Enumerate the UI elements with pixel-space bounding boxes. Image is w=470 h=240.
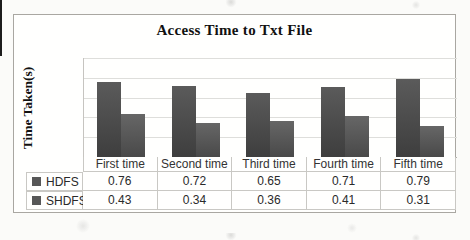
bar-group-5: [382, 58, 457, 157]
table-header-3: Third time: [232, 157, 307, 172]
table-value-hdfs-4: 0.71: [307, 172, 382, 191]
bar-shdfs-1: [121, 114, 145, 157]
table-value-hdfs-3: 0.65: [232, 172, 307, 191]
y-axis-title: Time Taken(s): [20, 58, 36, 158]
bar-shdfs-5: [420, 126, 444, 157]
table-header-5: Fifth time: [381, 157, 456, 172]
table-header-2: Second time: [158, 157, 233, 172]
bar-group-1: [84, 58, 159, 157]
bars: [84, 58, 457, 157]
bar-shdfs-3: [270, 121, 294, 157]
table-value-shdfs-5: 0.31: [381, 191, 456, 210]
bar-shdfs-2: [196, 123, 220, 157]
series-name: HDFS: [46, 175, 79, 189]
table-value-hdfs-5: 0.79: [381, 172, 456, 191]
table-header-4: Fourth time: [307, 157, 382, 172]
chart-title: Access Time to Txt File: [14, 22, 455, 39]
legend-item-shdfs: SHDFS: [26, 191, 83, 210]
bar-group-3: [233, 58, 308, 157]
legend-swatch-icon: [32, 196, 41, 205]
legend-swatch-icon: [32, 177, 41, 186]
series-name: SHDFS: [46, 194, 87, 208]
table-value-hdfs-1: 0.76: [83, 172, 158, 191]
table-value-shdfs-2: 0.34: [158, 191, 233, 210]
table-value-shdfs-4: 0.41: [307, 191, 382, 210]
table-header-1: First time: [83, 157, 158, 172]
table-corner-spacer: [26, 157, 83, 172]
table-value-hdfs-2: 0.72: [158, 172, 233, 191]
table-value-shdfs-1: 0.43: [83, 191, 158, 210]
legend-item-hdfs: HDFS: [26, 172, 83, 191]
data-table: First timeSecond timeThird timeFourth ti…: [26, 157, 456, 210]
table-value-shdfs-3: 0.36: [232, 191, 307, 210]
bar-shdfs-4: [345, 116, 369, 157]
bar-group-2: [159, 58, 234, 157]
chart-frame: Access Time to Txt File Time Taken(s) 00…: [13, 14, 456, 213]
plot-area: [83, 58, 457, 158]
bar-hdfs-5: [396, 79, 420, 157]
scan-edge-artifact: [0, 0, 2, 56]
scanned-page: { "chart_data": { "type": "bar", "title"…: [0, 0, 470, 233]
bar-hdfs-4: [321, 87, 345, 157]
bar-hdfs-1: [97, 82, 121, 157]
bar-hdfs-3: [246, 93, 270, 157]
bar-hdfs-2: [172, 86, 196, 157]
bar-group-4: [308, 58, 383, 157]
